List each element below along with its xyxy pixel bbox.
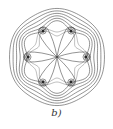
point-charge [27,56,29,58]
separatrix-petal [38,57,57,86]
point-charge [85,56,87,58]
figure-caption: b) [0,107,113,118]
point-charge [42,30,44,32]
point-charge [42,81,44,83]
separatrix-petal [57,57,76,86]
separatrix-petals [24,27,90,87]
point-charge [70,81,72,83]
point-charge [70,30,72,32]
